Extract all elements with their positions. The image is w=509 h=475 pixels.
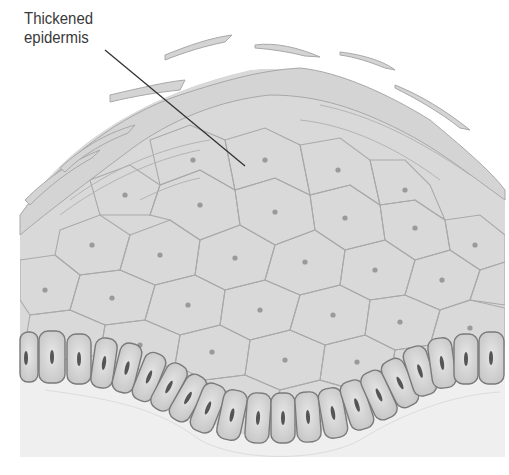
tissue-drawing — [0, 0, 509, 475]
thickened-epidermis-label: Thickened epidermis — [24, 9, 93, 47]
epidermis-illustration: Thickened epidermis — [0, 0, 509, 475]
